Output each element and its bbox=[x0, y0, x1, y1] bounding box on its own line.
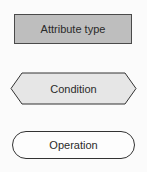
attribute-type-label: Attribute type bbox=[41, 23, 106, 35]
operation-label: Operation bbox=[49, 139, 97, 151]
condition-node: Condition bbox=[10, 72, 137, 105]
operation-node: Operation bbox=[12, 131, 135, 159]
condition-label: Condition bbox=[50, 83, 96, 95]
attribute-type-node: Attribute type bbox=[14, 14, 132, 44]
